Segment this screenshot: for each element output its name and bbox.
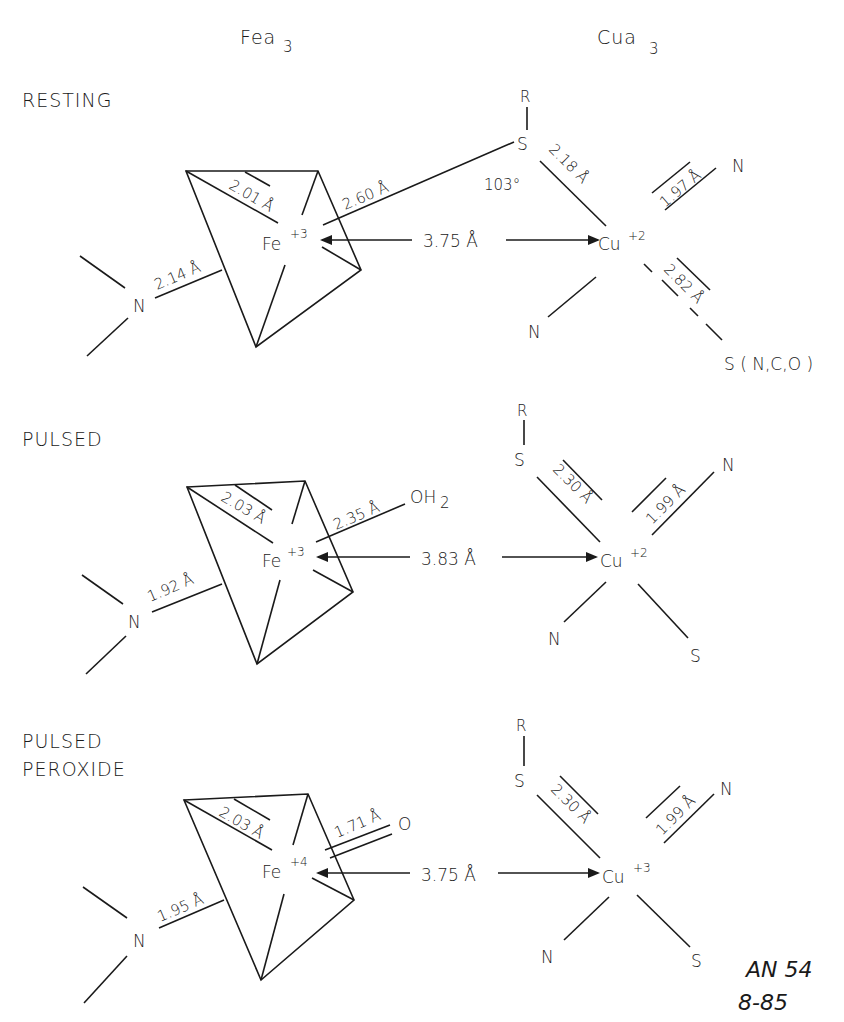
state-resting: RESTING Fe +3 2.01 Å N 2.14 Å 2.60 Å 3.7… — [22, 88, 813, 374]
state-pulsed-peroxide: PULSED PEROXIDE Fe +4 2.03 Å N 1.95 Å 1.… — [22, 717, 733, 1003]
n-ligand-top: N — [720, 779, 733, 799]
fe-label: Fe — [262, 551, 281, 571]
fe-pyramid — [184, 794, 354, 980]
state-label: RESTING — [22, 89, 112, 111]
n-ligand: N — [133, 296, 146, 316]
r-group: R — [520, 88, 530, 106]
s-angle: 103° — [484, 176, 520, 194]
fe-cu-distance: 3.83 Å — [421, 548, 476, 569]
cu-s-bond-length: 2.30 Å — [549, 459, 597, 507]
o-ligand: O — [398, 814, 411, 834]
fe-cu-distance: 3.75 Å — [423, 230, 478, 251]
drawing-annotation: AN 54 8-85 — [738, 957, 813, 1015]
cu-charge: +3 — [633, 861, 651, 875]
svg-text:2: 2 — [440, 494, 450, 512]
svg-text:3: 3 — [283, 38, 293, 56]
fe-n-bond-length: 1.92 Å — [144, 569, 196, 605]
n-ligand-bottom: N — [528, 322, 541, 342]
fe-eq-bond-length: 2.03 Å — [216, 802, 267, 843]
s-ligand: S — [514, 771, 525, 791]
fe-label: Fe — [262, 234, 281, 254]
fe-eq-bond-length: 2.01 Å — [226, 175, 277, 216]
fe-o-bond-length: 1.71 Å — [331, 805, 383, 841]
fe-charge: +4 — [290, 855, 308, 869]
state-label-line2: PEROXIDE — [22, 758, 126, 780]
n-ligand-top: N — [732, 156, 745, 176]
fe-pyramid — [187, 481, 353, 664]
s-ligand-bottom: S — [691, 951, 702, 971]
cu-charge: +2 — [628, 229, 646, 243]
n-ligand: N — [128, 612, 141, 632]
state-label: PULSED — [22, 428, 103, 450]
svg-text:Fea: Fea — [240, 26, 276, 48]
heme-copper-site-diagram: Fea 3 Cua 3 RESTING Fe +3 2.01 Å N 2.14 … — [0, 0, 844, 1022]
s-ligand: S — [517, 134, 528, 154]
fe-charge: +3 — [290, 227, 308, 241]
oh2-ligand: OH 2 — [410, 487, 450, 512]
cu-label: Cu — [600, 551, 623, 571]
svg-text:Cua: Cua — [597, 26, 637, 48]
s-ligand-bottom: S — [690, 646, 701, 666]
n-ligand-bottom: N — [548, 629, 561, 649]
svg-text:OH: OH — [410, 487, 436, 507]
s-ligand: S — [514, 450, 525, 470]
n-ligand: N — [133, 931, 146, 951]
svg-text:AN 54: AN 54 — [744, 957, 813, 982]
svg-text:3: 3 — [649, 40, 659, 58]
cu-label: Cu — [602, 867, 625, 887]
cu-s-long-bond-length: 2.82 Å — [660, 259, 708, 307]
column-header-cua3: Cua 3 — [597, 26, 659, 58]
state-label: PULSED — [22, 730, 103, 752]
column-header-fea3: Fea 3 — [240, 26, 293, 56]
fe-s-bond-length: 2.60 Å — [339, 177, 391, 213]
s-ligand-long: S ( N,C,O ) — [724, 354, 813, 374]
fe-label: Fe — [262, 862, 281, 882]
state-pulsed: PULSED Fe +3 2.03 Å N 1.92 Å 2.35 Å OH 2… — [22, 402, 735, 674]
n-ligand-top: N — [722, 455, 735, 475]
cu-label: Cu — [598, 234, 621, 254]
fe-eq-bond-length: 2.03 Å — [218, 487, 269, 528]
svg-text:8-85: 8-85 — [738, 990, 788, 1015]
cu-n-bond-length: 1.97 Å — [655, 165, 704, 211]
fe-cu-distance: 3.75 Å — [421, 864, 476, 885]
fe-axial-bond-length: 2.35 Å — [330, 497, 382, 533]
n-ligand-bottom: N — [541, 947, 554, 967]
fe-n-bond-length: 1.95 Å — [154, 889, 206, 925]
cu-charge: +2 — [630, 546, 648, 560]
fe-charge: +3 — [287, 545, 305, 559]
r-group: R — [516, 717, 526, 735]
r-group: R — [517, 402, 527, 420]
cu-s-bond-length: 2.18 Å — [545, 139, 593, 187]
